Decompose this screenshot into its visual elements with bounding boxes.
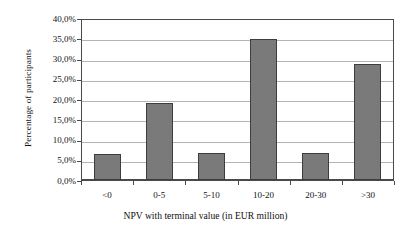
y-axis-tick-label: 10,0% (30, 136, 76, 145)
y-axis-tick-label: 15,0% (30, 116, 76, 125)
x-axis-tick-label: <0 (81, 190, 133, 201)
y-axis-tick-label: 25,0% (30, 75, 76, 84)
y-axis-tick-label: 0,0% (30, 177, 76, 186)
x-axis-tick-mark (290, 181, 291, 185)
y-axis-tick-label: 30,0% (30, 55, 76, 64)
x-axis-tick-label: 20-30 (290, 190, 342, 201)
x-axis-tick-label: >30 (342, 190, 394, 201)
x-axis-tick-mark (81, 181, 82, 185)
bar-slot (134, 20, 186, 180)
y-axis-tick-label: 20,0% (30, 96, 76, 105)
x-axis-tick-label: 0-5 (133, 190, 185, 201)
bar (146, 103, 173, 180)
bar (94, 154, 121, 180)
bar (250, 39, 277, 180)
x-axis-tick-mark (133, 181, 134, 185)
bar-chart: Percentage of participants 40,0%35,0%30,… (0, 0, 411, 239)
x-axis-ticks (81, 181, 394, 185)
y-axis-tick-label: 40,0% (30, 15, 76, 24)
x-axis-tick-mark (185, 181, 186, 185)
bar-slot (237, 20, 289, 180)
bar (302, 153, 329, 180)
bar-slot (341, 20, 393, 180)
x-axis-tick-mark (342, 181, 343, 185)
x-axis-title: NPV with terminal value (in EUR million) (0, 210, 411, 221)
plot-area (81, 19, 394, 181)
bar-slot (186, 20, 238, 180)
bars-layer (82, 20, 393, 180)
y-axis-tick-labels: 40,0%35,0%30,0%25,0%20,0%15,0%10,0%5,0%0… (30, 19, 76, 181)
bar (354, 64, 381, 180)
x-axis-tick-mark (238, 181, 239, 185)
x-axis-tick-label: 5-10 (185, 190, 237, 201)
bar-slot (82, 20, 134, 180)
y-axis-tick-label: 5,0% (30, 156, 76, 165)
x-axis-tick-label: 10-20 (238, 190, 290, 201)
x-axis-tick-labels: <00-55-1010-2020-30>30 (81, 190, 394, 201)
x-axis-tick-mark (394, 181, 395, 185)
bar-slot (289, 20, 341, 180)
bar (198, 153, 225, 180)
y-axis-tick-label: 35,0% (30, 35, 76, 44)
